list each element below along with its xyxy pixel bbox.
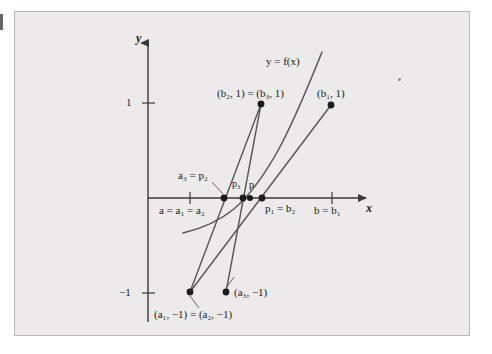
label-b2-b3: (b₂, 1) = (b₃, 1) — [217, 88, 284, 99]
y-tick-label-neg-one: −1 — [119, 287, 131, 298]
leader-a3-p2 — [212, 182, 223, 194]
point-a3 — [223, 289, 230, 296]
label-p3: p₃ — [232, 179, 241, 189]
x-axis-label: x — [366, 202, 372, 214]
y-tick-label-one: 1 — [126, 97, 132, 108]
point-p3 — [240, 195, 247, 202]
point-p1-b2 — [259, 195, 266, 202]
point-p — [247, 195, 253, 201]
label-p: p — [249, 180, 254, 190]
label-a1-a2-neg1: (a₁, −1) = (a₂, −1) — [154, 309, 232, 320]
label-b1: (b₁, 1) — [317, 88, 345, 99]
point-a1-a2 — [187, 289, 194, 296]
point-b2-b3 — [258, 101, 265, 108]
y-axis-label: y — [136, 32, 141, 44]
label-a-chain: a = a₁ = a₂ — [159, 205, 205, 216]
figure-graphics — [0, 0, 492, 354]
curve-label: y = f(x) — [266, 56, 300, 67]
point-a3-p2 — [221, 195, 228, 202]
label-b-chain: b = b₁ — [314, 205, 341, 216]
label-p1-b2: p₁ = b₂ — [265, 203, 295, 214]
leader-a1a2 — [190, 296, 199, 308]
label-a3-neg1: (a₃, −1) — [234, 287, 267, 298]
page-background: y x 1 −1 y = f(x) (b₂, 1) = (b₃, 1) (b₁,… — [0, 0, 492, 354]
label-a3-p2: a₃ = p₂ — [178, 170, 208, 181]
point-b1 — [328, 102, 335, 109]
y-axis — [142, 43, 155, 322]
